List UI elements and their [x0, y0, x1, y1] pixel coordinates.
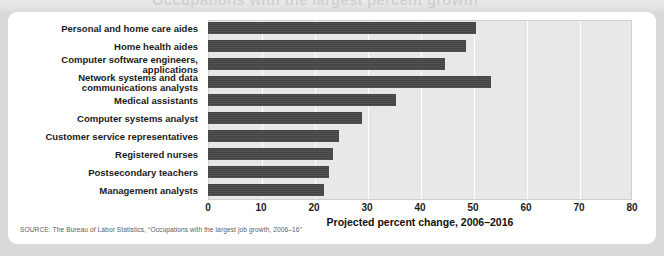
x-tick-30: 30 [361, 202, 372, 213]
x-tick-70: 70 [573, 202, 584, 213]
bar [208, 94, 396, 106]
bar-row [208, 92, 632, 110]
bar [208, 148, 333, 160]
category-label: Computer systems analyst [8, 110, 202, 128]
bar [208, 112, 362, 124]
category-label: Home health aides [8, 38, 202, 56]
category-label: Postsecondary teachers [8, 164, 202, 182]
category-label-line: communications analysts [78, 83, 198, 93]
bar [208, 58, 445, 70]
bar [208, 184, 324, 196]
category-label-line: Customer service representatives [45, 132, 198, 142]
figure-card: Personal and home care aidesHome health … [8, 12, 656, 244]
x-tick-10: 10 [255, 202, 266, 213]
x-axis-ticks: 01020304050607080 [208, 202, 632, 216]
category-label: Network systems and datacommunications a… [8, 74, 202, 92]
bar-row [208, 38, 632, 56]
bar-row [208, 128, 632, 146]
bar [208, 76, 491, 88]
category-label: Medical assistants [8, 92, 202, 110]
category-label-line: Management analysts [99, 186, 198, 196]
source-note: SOURCE: The Bureau of Labor Statistics, … [20, 226, 302, 233]
x-tick-40: 40 [414, 202, 425, 213]
x-tick-80: 80 [626, 202, 637, 213]
category-label: Management analysts [8, 182, 202, 200]
bar-row [208, 20, 632, 38]
gridline-80 [633, 21, 634, 199]
category-label-line: Personal and home care aides [61, 24, 198, 34]
category-label-line: Computer systems analyst [77, 114, 198, 124]
category-label: Registered nurses [8, 146, 202, 164]
category-label-line: Home health aides [114, 42, 198, 52]
category-label-line: Postsecondary teachers [88, 168, 198, 178]
category-label: Computer software engineers, application… [8, 56, 202, 74]
category-label-line: Medical assistants [114, 96, 198, 106]
x-tick-60: 60 [520, 202, 531, 213]
category-label-line: Registered nurses [115, 150, 198, 160]
bar [208, 130, 339, 142]
bar [208, 40, 466, 52]
bar-row [208, 146, 632, 164]
category-axis-labels: Personal and home care aidesHome health … [8, 20, 202, 200]
cropped-title-fragment: Occupations with the largest percent gro… [152, 0, 478, 8]
bar-row [208, 56, 632, 74]
bar-row [208, 164, 632, 182]
x-tick-50: 50 [467, 202, 478, 213]
bars-layer [208, 20, 632, 200]
x-tick-0: 0 [205, 202, 211, 213]
x-tick-20: 20 [308, 202, 319, 213]
bar-row [208, 110, 632, 128]
bar-chart: Personal and home care aidesHome health … [8, 16, 656, 212]
page-top-strip: Occupations with the largest percent gro… [0, 0, 664, 12]
category-label: Personal and home care aides [8, 20, 202, 38]
bar [208, 22, 476, 34]
bar-row [208, 74, 632, 92]
category-label: Customer service representatives [8, 128, 202, 146]
bar [208, 166, 329, 178]
bar-row [208, 182, 632, 200]
